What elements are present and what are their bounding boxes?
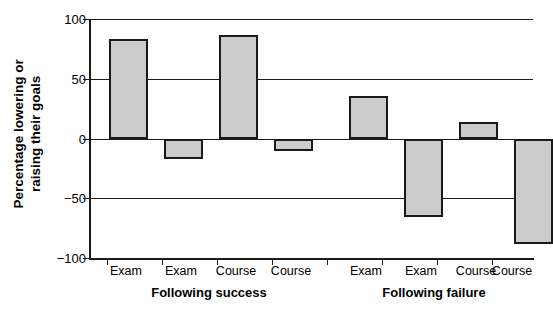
y-tick-label-neg50: −50 [46,191,86,206]
x-tickmark-5 [327,258,328,265]
bar-success-exam-2 [164,139,203,159]
bar-failure-exam-2 [404,139,443,217]
x-label-failure-course-1: Course [456,264,496,278]
plot-area [89,19,531,258]
bar-failure-course-2 [514,139,553,244]
x-label-failure-exam-1: Exam [350,264,382,278]
x-axis-line [89,258,534,260]
x-label-success-exam-2: Exam [165,264,197,278]
x-label-success-exam-1: Exam [110,264,142,278]
x-tickmark-6 [382,258,383,265]
bar-series [91,19,533,258]
y-tick-label-100: 100 [46,12,86,27]
y-tick-label-0: 0 [46,132,86,147]
bar-success-course-1 [219,35,258,139]
bar-success-course-2 [274,139,313,151]
x-label-success-course-2: Course [271,264,311,278]
bar-failure-exam-1 [349,96,388,139]
bar-success-exam-1 [109,39,148,139]
x-tickmark-7 [437,258,438,265]
y-tick-label-neg100: −100 [46,251,86,266]
x-label-success-course-1: Course [216,264,256,278]
group-label-following-success: Following success [151,285,267,300]
x-tickmark-2 [162,258,163,265]
x-label-failure-course-2: Course [492,264,532,278]
group-label-following-failure: Following failure [382,285,485,300]
y-tick-label-50: 50 [46,72,86,87]
x-label-failure-exam-2: Exam [405,264,437,278]
x-tickmark-1 [107,258,108,265]
y-axis-tick-labels: 100 50 0 −50 −100 [20,0,86,314]
bar-failure-course-1 [459,122,498,139]
